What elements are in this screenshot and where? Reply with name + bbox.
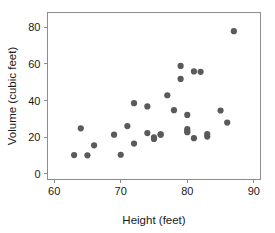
data-point xyxy=(184,129,190,135)
data-point xyxy=(91,142,97,148)
data-point xyxy=(71,152,77,158)
x-tick-label: 80 xyxy=(181,185,193,197)
data-point xyxy=(217,107,223,113)
data-point xyxy=(124,123,130,129)
data-point xyxy=(224,120,230,126)
data-point xyxy=(131,100,137,106)
scatter-plot-figure: 020406080 60708090 Height (feet) Volume … xyxy=(0,0,275,233)
y-tick-label: 20 xyxy=(28,131,40,143)
data-point xyxy=(131,140,137,146)
y-axis-title: Volume (cubic feet) xyxy=(6,47,18,146)
data-point xyxy=(178,63,184,69)
x-tick-label: 60 xyxy=(48,185,60,197)
data-point xyxy=(204,131,210,137)
y-tick-label: 0 xyxy=(34,168,40,180)
data-point xyxy=(144,130,150,136)
data-point xyxy=(191,68,197,74)
plot-frame-rect xyxy=(48,13,261,180)
data-point xyxy=(178,76,184,82)
data-point xyxy=(184,112,190,118)
data-point xyxy=(158,132,164,138)
x-tick-label: 90 xyxy=(248,185,260,197)
data-point xyxy=(78,125,84,131)
data-points-layer xyxy=(71,28,237,158)
x-tick-label: 70 xyxy=(115,185,127,197)
data-point xyxy=(197,69,203,75)
data-point xyxy=(231,28,237,34)
data-point xyxy=(84,152,90,158)
data-point xyxy=(164,92,170,98)
plot-canvas: 020406080 60708090 Height (feet) Volume … xyxy=(0,0,275,233)
x-axis-title: Height (feet) xyxy=(122,214,185,226)
data-point xyxy=(144,103,150,109)
plot-frame xyxy=(48,13,261,180)
x-axis: 60708090 xyxy=(48,180,260,197)
y-tick-label: 80 xyxy=(28,21,40,33)
y-axis: 020406080 xyxy=(28,21,47,180)
data-point xyxy=(111,132,117,138)
data-point xyxy=(118,152,124,158)
y-tick-label: 60 xyxy=(28,58,40,70)
data-point xyxy=(151,134,157,140)
y-tick-label: 40 xyxy=(28,95,40,107)
data-point xyxy=(191,135,197,141)
data-point xyxy=(171,107,177,113)
